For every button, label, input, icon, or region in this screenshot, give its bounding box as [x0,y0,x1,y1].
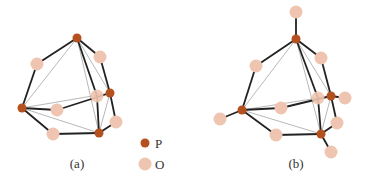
diagram-canvas: P O (a) (b) [0,0,365,185]
oxygen-atom-front [91,90,104,103]
panel-a-structure [18,34,123,141]
oxygen-atom-front [312,92,325,105]
legend-p-label: P [155,136,162,151]
legend-p-swatch [141,139,150,148]
legend-o-swatch [139,158,152,171]
legend-o-label: O [155,157,164,172]
panel-b-structure [214,6,352,159]
caption-a: (a) [70,156,84,171]
legend: P O [139,136,165,172]
p-o-bonds [220,12,345,152]
caption-b: (b) [288,156,303,171]
phosphorus-atoms [18,34,115,138]
